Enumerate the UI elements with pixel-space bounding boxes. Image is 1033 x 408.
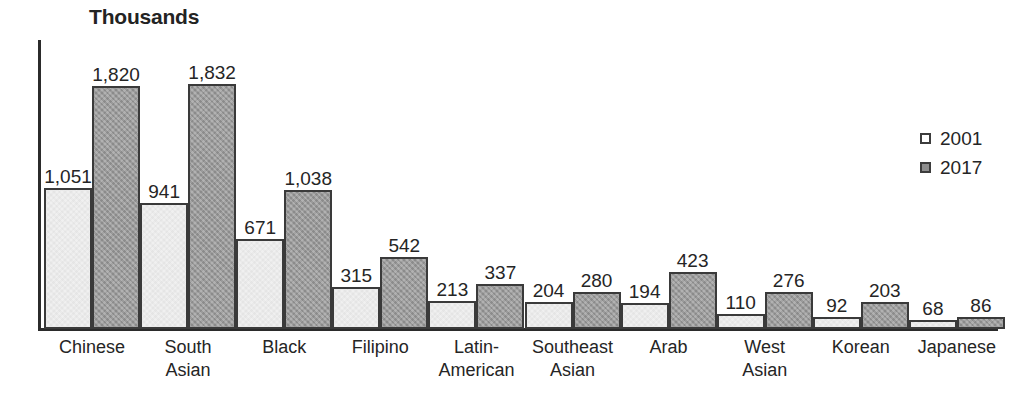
bar-2017[interactable]: 276 bbox=[765, 292, 813, 329]
bar-2001[interactable]: 92 bbox=[813, 317, 861, 329]
x-axis-label: Japanese bbox=[897, 336, 1017, 359]
bar-value-label: 337 bbox=[485, 262, 517, 284]
bar-value-label: 276 bbox=[773, 270, 805, 292]
bar-group: 110276 bbox=[717, 40, 813, 329]
bar-value-label: 1,051 bbox=[44, 166, 92, 188]
bar-2017[interactable]: 203 bbox=[861, 302, 909, 329]
bar-value-label: 315 bbox=[340, 265, 372, 287]
legend-label-2017: 2017 bbox=[940, 158, 982, 177]
y-axis-line bbox=[38, 40, 41, 331]
bar-group: 9411,832 bbox=[140, 40, 236, 329]
bar-2001[interactable]: 315 bbox=[332, 287, 380, 329]
bar-group: 6711,038 bbox=[236, 40, 332, 329]
bar-value-label: 1,832 bbox=[188, 62, 236, 84]
bar-2001[interactable]: 194 bbox=[621, 303, 669, 329]
bar-value-label: 1,820 bbox=[92, 64, 140, 86]
bar-2001[interactable]: 941 bbox=[140, 203, 188, 329]
bar-value-label: 92 bbox=[826, 295, 847, 317]
bar-2001[interactable]: 671 bbox=[236, 239, 284, 329]
bar-chart: Thousands 1,0511,8209411,8326711,0383155… bbox=[0, 0, 1033, 408]
bar-value-label: 1,038 bbox=[284, 168, 332, 190]
bar-value-label: 203 bbox=[869, 280, 901, 302]
bar-2017[interactable]: 1,832 bbox=[188, 84, 236, 329]
bar-2017[interactable]: 337 bbox=[476, 284, 524, 329]
bar-2001[interactable]: 110 bbox=[717, 314, 765, 329]
bar-2017[interactable]: 423 bbox=[669, 272, 717, 329]
bar-group: 1,0511,820 bbox=[44, 40, 140, 329]
bar-value-label: 542 bbox=[388, 235, 420, 257]
bar-value-label: 671 bbox=[244, 217, 276, 239]
bar-value-label: 280 bbox=[581, 270, 613, 292]
bar-group: 315542 bbox=[332, 40, 428, 329]
bar-2001[interactable]: 1,051 bbox=[44, 188, 92, 329]
bar-value-label: 110 bbox=[726, 292, 756, 314]
legend: 2001 2017 bbox=[920, 124, 982, 182]
bar-group: 213337 bbox=[428, 40, 524, 329]
legend-swatch-icon-2001 bbox=[920, 133, 931, 144]
bar-2017[interactable]: 280 bbox=[573, 292, 621, 329]
chart-title: Thousands bbox=[89, 5, 199, 29]
legend-swatch-icon-2017 bbox=[920, 162, 931, 173]
bar-value-label: 204 bbox=[533, 280, 565, 302]
bar-group: 194423 bbox=[621, 40, 717, 329]
bar-value-label: 86 bbox=[970, 295, 991, 317]
legend-item-2001[interactable]: 2001 bbox=[920, 124, 982, 153]
bar-value-label: 213 bbox=[437, 279, 469, 301]
bar-2001[interactable]: 213 bbox=[428, 301, 476, 329]
bar-value-label: 194 bbox=[629, 281, 661, 303]
bar-2001[interactable]: 204 bbox=[525, 302, 573, 329]
bar-2017[interactable]: 542 bbox=[380, 257, 428, 329]
legend-label-2001: 2001 bbox=[940, 129, 982, 148]
bar-value-label: 423 bbox=[677, 250, 709, 272]
bar-2017[interactable]: 86 bbox=[957, 317, 1005, 329]
legend-item-2017[interactable]: 2017 bbox=[920, 153, 982, 182]
plot-area: 1,0511,8209411,8326711,03831554221333720… bbox=[38, 40, 998, 331]
bar-group: 204280 bbox=[525, 40, 621, 329]
bar-2017[interactable]: 1,038 bbox=[284, 190, 332, 329]
bar-2001[interactable]: 68 bbox=[909, 320, 957, 329]
bar-group: 6886 bbox=[909, 40, 1005, 329]
bar-value-label: 941 bbox=[148, 181, 180, 203]
bar-group: 92203 bbox=[813, 40, 909, 329]
bar-value-label: 68 bbox=[922, 298, 943, 320]
bar-2017[interactable]: 1,820 bbox=[92, 86, 140, 329]
